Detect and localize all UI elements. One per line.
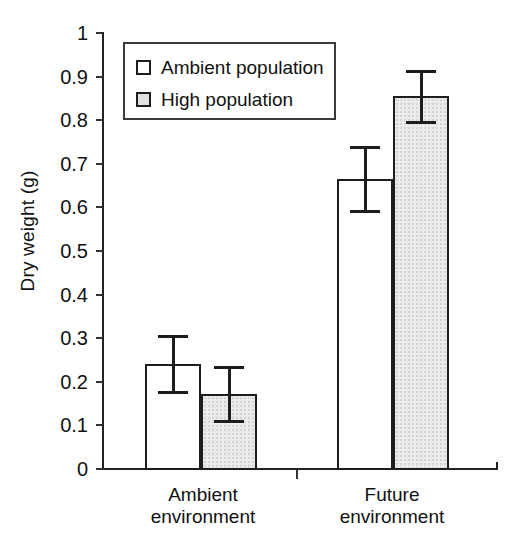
y-axis-tick-label-wrap: 1 bbox=[18, 33, 88, 34]
x-axis-end-cap bbox=[496, 462, 498, 470]
y-axis-tick bbox=[96, 163, 103, 165]
y-axis-tick-label: 0 bbox=[18, 459, 88, 479]
y-axis-tick-label: 0.2 bbox=[18, 372, 88, 392]
x-category-line-1: Ambient bbox=[123, 484, 283, 506]
y-axis-tick-label: 0.3 bbox=[18, 328, 88, 348]
y-axis-tick-label-wrap: 0.1 bbox=[18, 425, 88, 426]
error-bar-stem bbox=[228, 367, 231, 420]
bar bbox=[393, 96, 449, 470]
x-axis-category-label-future-environment: Future environment bbox=[312, 484, 472, 529]
legend-swatch-icon-ambient-population bbox=[136, 60, 151, 75]
y-axis-tick-label: 0.9 bbox=[18, 67, 88, 87]
error-bar-cap-lower bbox=[406, 121, 436, 124]
x-axis-tick-group-divider bbox=[296, 470, 298, 479]
legend-label-high-population: High population bbox=[161, 90, 293, 109]
y-axis-tick-label-wrap: 0.6 bbox=[18, 207, 88, 208]
y-axis-tick-label: 0.1 bbox=[18, 415, 88, 435]
y-axis-tick-label-wrap: 0.4 bbox=[18, 295, 88, 296]
y-axis-tick bbox=[96, 337, 103, 339]
y-axis-tick-label: 1 bbox=[18, 23, 88, 43]
bar-chart: Dry weight (g) 00.10.20.30.40.50.60.70.8… bbox=[0, 0, 515, 558]
x-axis-category-label-ambient-environment: Ambient environment bbox=[123, 484, 283, 529]
y-axis-tick-label-wrap: 0.7 bbox=[18, 164, 88, 165]
x-category-line-2: environment bbox=[123, 506, 283, 528]
error-bar-cap-lower bbox=[350, 210, 380, 213]
error-bar-stem bbox=[172, 336, 175, 393]
error-bar-stem bbox=[364, 147, 367, 211]
y-axis-tick-label-wrap: 0 bbox=[18, 469, 88, 470]
y-axis-tick bbox=[96, 76, 103, 78]
y-axis-tick-label-wrap: 0.8 bbox=[18, 120, 88, 121]
y-axis-tick-label-wrap: 0.3 bbox=[18, 338, 88, 339]
y-axis-tick bbox=[96, 206, 103, 208]
bar bbox=[337, 179, 393, 470]
y-axis-tick-label: 0.6 bbox=[18, 197, 88, 217]
x-category-line-2: environment bbox=[312, 506, 472, 528]
legend-swatch-icon-high-population bbox=[136, 92, 151, 107]
y-axis-tick-label: 0.7 bbox=[18, 154, 88, 174]
error-bar-cap-upper bbox=[214, 366, 244, 369]
y-axis-tick bbox=[96, 381, 103, 383]
y-axis-tick bbox=[96, 424, 103, 426]
x-category-line-1: Future bbox=[312, 484, 472, 506]
y-axis-tick-label-wrap: 0.5 bbox=[18, 251, 88, 252]
y-axis-tick bbox=[96, 294, 103, 296]
error-bar-cap-lower bbox=[214, 420, 244, 423]
error-bar-stem bbox=[420, 71, 423, 122]
y-axis-tick-label: 0.8 bbox=[18, 110, 88, 130]
legend: Ambient population High population bbox=[123, 42, 336, 120]
y-axis-tick bbox=[96, 250, 103, 252]
legend-entry-high-population: High population bbox=[136, 83, 334, 115]
error-bar-cap-upper bbox=[350, 146, 380, 149]
y-axis-tick bbox=[96, 119, 103, 121]
y-axis-tick-label: 0.4 bbox=[18, 285, 88, 305]
y-axis-tick bbox=[96, 32, 103, 34]
error-bar-cap-lower bbox=[158, 391, 188, 394]
legend-entry-ambient-population: Ambient population bbox=[136, 51, 334, 83]
error-bar-cap-upper bbox=[158, 335, 188, 338]
legend-label-ambient-population: Ambient population bbox=[161, 58, 324, 77]
y-axis-tick-label-wrap: 0.2 bbox=[18, 382, 88, 383]
error-bar-cap-upper bbox=[406, 70, 436, 73]
y-axis-tick-label: 0.5 bbox=[18, 241, 88, 261]
y-axis-tick bbox=[96, 468, 103, 470]
y-axis-tick-label-wrap: 0.9 bbox=[18, 77, 88, 78]
